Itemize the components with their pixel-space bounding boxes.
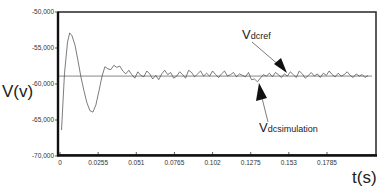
x-tick-label: 0.1275 — [241, 159, 261, 166]
svg-text:Vdcsimulation: Vdcsimulation — [259, 120, 318, 135]
x-tick-label: 0.1785 — [317, 159, 337, 166]
x-tick-label: 0 — [58, 159, 62, 166]
vdcsimulation-label-sub: dcsimulation — [268, 124, 318, 134]
x-tick-label: 0.051 — [128, 159, 145, 166]
vdcsimulation-series-line — [62, 33, 369, 130]
x-tick-label: 0.153 — [281, 159, 298, 166]
vdcref-arrow-shaft — [252, 42, 280, 66]
x-tick-label: 0.102 — [204, 159, 221, 166]
x-axis-ticks: 00.02550.0510.07650.1020.12750.1530.1785 — [58, 152, 337, 166]
chart: -50,000-55,000-60,000-65,000-70,000 00.0… — [0, 0, 391, 188]
x-tick-label: 0.0765 — [164, 159, 184, 166]
svg-text:Vdcref: Vdcref — [242, 27, 271, 42]
vdcsimulation-label-main: V — [259, 120, 268, 135]
y-tick-label: -65,000 — [32, 116, 54, 123]
plot-frame — [58, 12, 376, 155]
vdcref-label-main: V — [242, 27, 251, 42]
y-axis-ticks: -50,000-55,000-60,000-65,000-70,000 — [32, 8, 59, 159]
y-tick-label: -60,000 — [32, 80, 54, 87]
vdcref-label-sub: dcref — [251, 31, 272, 41]
x-axis-label: t(s) — [352, 168, 377, 187]
y-tick-label: -55,000 — [32, 44, 54, 51]
vdcref-annotation: Vdcref — [242, 27, 287, 73]
y-tick-label: -70,000 — [32, 152, 54, 159]
vdcsimulation-arrow-head-icon — [256, 83, 267, 101]
y-axis-label: V(v) — [2, 82, 33, 101]
x-tick-label: 0.0255 — [88, 159, 108, 166]
y-tick-label: -50,000 — [32, 8, 54, 15]
vdcsimulation-annotation: Vdcsimulation — [256, 83, 318, 135]
vdcref-arrow-head-icon — [274, 58, 287, 73]
vdcsimulation-arrow-shaft — [262, 98, 268, 122]
